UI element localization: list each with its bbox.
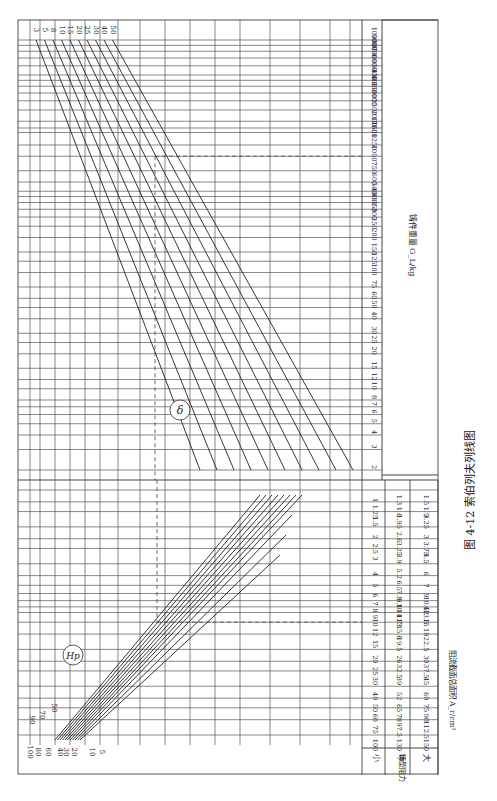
scale-tick-weight: 150 — [370, 243, 378, 255]
hp-series-label: 80 — [34, 748, 42, 757]
table-cell-small: 30 — [371, 677, 379, 685]
table-cell-large: 6 — [422, 572, 430, 576]
axis-label-weight: 铸件重量 G_L/kg — [408, 214, 418, 277]
table-cell-large: 18 — [422, 628, 430, 636]
table-cell-small: 2 — [371, 535, 379, 539]
table-cell-medium: 2.6 — [395, 532, 403, 542]
delta-series-label: 3 — [32, 28, 40, 32]
scale-tick-weight: 3 — [370, 444, 378, 448]
scale-tick-weight: 8 — [370, 395, 378, 399]
delta-series-label: 25 — [83, 26, 91, 35]
hp-series-line — [63, 495, 279, 740]
table-cell-small: 15 — [371, 640, 379, 648]
table-cell-small: 1.5 — [371, 516, 379, 526]
scale-tick-weight: 600 — [370, 173, 378, 185]
hp-series-label: 60 — [44, 748, 52, 757]
delta-series-label: 20 — [75, 26, 83, 35]
table-cell-large: 1.5 — [422, 495, 430, 505]
table-cell-medium: 5.2 — [395, 569, 403, 579]
hp-series-line — [80, 555, 280, 740]
hp-series-label: 70 — [38, 711, 46, 720]
delta-label: δ — [177, 404, 184, 417]
delta-series-line — [62, 40, 252, 470]
hp-series-line — [70, 495, 296, 740]
table-cell-small: 3 — [371, 556, 379, 560]
table-cell-small: 4 — [371, 572, 379, 576]
delta-series-label: 5 — [41, 28, 49, 32]
table-cell-medium: 26 — [395, 655, 403, 663]
scale-tick-weight: 750 — [370, 162, 378, 174]
delta-series-label: 8 — [49, 28, 57, 32]
table-row-header: 铸型阻力 — [398, 754, 407, 782]
table-cell-medium: 3.9 — [395, 553, 403, 563]
delta-series-label: 40 — [100, 26, 108, 35]
scale-tick-weight: 30 — [370, 326, 378, 334]
scale-tick-weight: 75 — [370, 280, 378, 288]
delta-series-label: 30 — [92, 26, 100, 35]
table-cell-large: 45 — [422, 677, 430, 685]
hp-label: Hp — [65, 651, 80, 661]
table-cell-medium: 39 — [395, 677, 403, 685]
axis-label-area: 阻流截面总面积 A_r/cm² — [448, 650, 458, 731]
scale-tick-weight: 25 — [370, 335, 378, 343]
scale-tick-weight: 5 — [370, 419, 378, 423]
table-cell-small: 8 — [371, 609, 379, 613]
scale-tick-weight: 15 — [370, 361, 378, 369]
scale-tick-weight: 10000 — [370, 27, 378, 48]
scale-tick-weight: 100 — [370, 263, 378, 275]
scale-tick-weight: 6 — [370, 409, 378, 413]
nomogram-figure: 2345678101215202530405060751001251502002… — [0, 0, 497, 801]
table-cell-large: 3 — [422, 535, 430, 539]
table-cell-large: 150 — [422, 739, 430, 751]
table-cell-small: 100 — [371, 739, 379, 751]
table-cell-medium: 78 — [395, 714, 403, 722]
scale-tick-weight: 20 — [370, 347, 378, 355]
hp-series-line — [78, 535, 287, 740]
delta-series-line — [113, 40, 354, 470]
hp-series-line — [65, 495, 284, 740]
scale-tick-weight: 200 — [370, 228, 378, 240]
table-cell-small: 7 — [371, 601, 379, 605]
table-cell-large: 4.5 — [422, 553, 430, 563]
scale-tick-weight: 2 — [370, 465, 378, 469]
table-cell-small: 40 — [371, 692, 379, 700]
hp-series-line — [58, 495, 267, 740]
table-cell-small: 75 — [371, 726, 379, 734]
delta-series-label: 15 — [66, 26, 74, 35]
table-cell-large: 60 — [422, 692, 430, 700]
table-cell-small: 12 — [371, 628, 379, 636]
delta-series-line — [45, 40, 218, 470]
table-cell-large: 30 — [422, 655, 430, 663]
figure-caption: 图 4-12 索伯列夫列线图 — [456, 300, 496, 560]
table-cell-medium: 130 — [395, 739, 403, 751]
hp-series-label: 100 — [26, 745, 34, 758]
hp-series-line — [55, 495, 260, 740]
delta-series-label: 10 — [58, 26, 66, 35]
hp-series-label: 10 — [88, 748, 96, 757]
hp-series-line — [68, 495, 291, 740]
table-cell-medium: 52 — [395, 692, 403, 700]
table-column-header-2: 大 — [422, 754, 432, 762]
hp-series-label: 50 — [50, 704, 58, 713]
scale-tick-weight: 12 — [370, 372, 378, 380]
hp-series-label: 5 — [98, 750, 106, 754]
hp-series-line — [73, 495, 303, 740]
scale-tick-weight: 50 — [370, 300, 378, 308]
nomogram-svg: 2345678101215202530405060751001251502002… — [0, 0, 497, 801]
scale-tick-weight: 4 — [370, 430, 378, 434]
scale-tick-weight: 60 — [370, 291, 378, 299]
table-column-header-0: 小 — [372, 754, 381, 762]
table-cell-small: 60 — [371, 714, 379, 722]
scale-tick-weight: 7 — [370, 402, 378, 406]
table-cell-medium: 1.3 — [395, 495, 403, 505]
caption-text: 图 4-12 索伯列夫列线图 — [463, 430, 477, 550]
hp-series-label: 30 — [62, 748, 70, 757]
scale-tick-weight: 40 — [370, 312, 378, 320]
hp-series-label: 90 — [28, 716, 36, 725]
table-cell-large: 112.5 — [422, 720, 430, 739]
delta-series-line — [104, 40, 336, 470]
scale-tick-weight: 10 — [370, 382, 378, 390]
hp-series-label: 20 — [70, 748, 78, 757]
table-cell-small: 20 — [371, 655, 379, 663]
delta-series-label: 50 — [109, 26, 117, 35]
